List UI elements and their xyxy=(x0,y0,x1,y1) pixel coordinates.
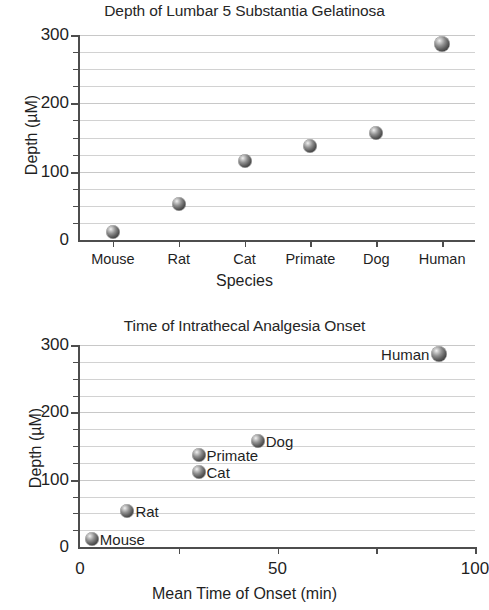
bottom-chart-y-tick xyxy=(73,497,80,498)
bottom-chart-y-tick xyxy=(73,513,80,514)
top-chart-gridline xyxy=(80,86,475,87)
bottom-chart-plot-area: 0100200300050100MouseRatCatPrimateDogHum… xyxy=(80,345,475,547)
bottom-chart-gridline xyxy=(80,463,475,464)
bottom-chart-x-tick xyxy=(278,547,280,554)
top-chart-y-tick xyxy=(71,35,80,37)
top-chart-gridline xyxy=(80,223,475,224)
bottom-chart-y-tick xyxy=(73,362,80,363)
bottom-chart-x-tick-label: 0 xyxy=(75,559,84,579)
bottom-chart-x-tick-label: 100 xyxy=(461,559,489,579)
top-chart-data-point-primate xyxy=(304,139,317,152)
top-chart-y-tick xyxy=(73,138,80,139)
top-chart-x-tick xyxy=(113,240,115,247)
bottom-chart-y-tick xyxy=(73,446,80,447)
bottom-chart-y-tick xyxy=(71,412,80,414)
top-chart-y-tick-label: 300 xyxy=(41,25,69,45)
top-chart-y-tick-label: 100 xyxy=(41,162,69,182)
top-chart-title: Depth of Lumbar 5 Substantia Gelatinosa xyxy=(0,2,489,20)
top-chart-y-tick xyxy=(73,52,80,53)
top-chart-y-tick xyxy=(73,120,80,121)
top-chart-gridline xyxy=(80,35,475,36)
top-chart-gridline xyxy=(80,52,475,53)
bottom-chart-y-tick xyxy=(73,429,80,430)
bottom-chart-title: Time of Intrathecal Analgesia Onset xyxy=(0,317,489,335)
bottom-chart-y-tick xyxy=(73,463,80,464)
bottom-chart-y-tick-label: 0 xyxy=(60,537,69,557)
bottom-chart-point-label-cat: Cat xyxy=(207,464,230,481)
figure-two-scatter-plots: Depth of Lumbar 5 Substantia Gelatinosa … xyxy=(0,0,489,610)
top-chart-category-label-cat: Cat xyxy=(233,251,256,267)
bottom-chart-x-tick-label: 50 xyxy=(268,559,287,579)
bottom-chart-y-tick xyxy=(73,379,80,380)
bottom-chart-y-tick xyxy=(71,345,80,347)
bottom-chart-x-tick xyxy=(475,547,477,554)
top-chart-y-axis-title: Depth (µM) xyxy=(23,75,41,195)
top-chart-data-point-rat xyxy=(172,197,185,210)
top-chart-x-tick xyxy=(442,240,444,247)
top-chart-data-point-cat xyxy=(238,155,251,168)
top-chart-y-tick xyxy=(73,189,80,190)
bottom-chart-y-tick xyxy=(73,530,80,531)
top-chart-category-label-human: Human xyxy=(419,251,466,267)
bottom-chart-x-tick xyxy=(376,547,378,554)
bottom-chart-y-tick xyxy=(73,396,80,397)
top-chart-gridline xyxy=(80,120,475,121)
bottom-chart-y-tick-label: 300 xyxy=(41,335,69,355)
bottom-chart-x-tick xyxy=(179,547,181,554)
bottom-chart-y-tick-label: 200 xyxy=(41,402,69,422)
top-chart-x-tick xyxy=(376,240,378,247)
top-chart-data-point-human xyxy=(435,36,450,51)
top-chart-gridline xyxy=(80,189,475,190)
bottom-chart-gridline xyxy=(80,412,475,413)
bottom-chart-point-label-human: Human xyxy=(381,345,429,362)
top-chart-data-point-dog xyxy=(370,126,383,139)
top-chart-y-tick xyxy=(71,172,80,174)
bottom-chart-data-point-cat xyxy=(192,466,205,479)
bottom-chart-gridline xyxy=(80,497,475,498)
bottom-chart-data-point-rat xyxy=(121,505,134,518)
top-chart-category-label-rat: Rat xyxy=(167,251,190,267)
top-chart-gridline xyxy=(80,69,475,70)
bottom-chart-gridline xyxy=(80,379,475,380)
chart-panel-depth-by-species: Depth of Lumbar 5 Substantia Gelatinosa … xyxy=(0,0,489,300)
top-chart-y-tick-label: 0 xyxy=(60,230,69,250)
bottom-chart-y-tick-label: 100 xyxy=(41,470,69,490)
top-chart-gridline xyxy=(80,103,475,104)
bottom-chart-x-axis-title: Mean Time of Onset (min) xyxy=(0,585,489,603)
bottom-chart-point-label-dog: Dog xyxy=(266,433,294,450)
top-chart-y-tick xyxy=(73,223,80,224)
top-chart-gridline xyxy=(80,155,475,156)
bottom-chart-gridline xyxy=(80,396,475,397)
top-chart-gridline xyxy=(80,172,475,173)
bottom-chart-point-label-mouse: Mouse xyxy=(100,530,145,547)
top-chart-y-tick-label: 200 xyxy=(41,93,69,113)
bottom-chart-gridline xyxy=(80,429,475,430)
top-chart-gridline xyxy=(80,138,475,139)
top-chart-y-tick xyxy=(73,86,80,87)
top-chart-x-tick xyxy=(179,240,181,247)
bottom-chart-data-point-primate xyxy=(192,448,205,461)
bottom-chart-gridline xyxy=(80,480,475,481)
bottom-chart-y-tick xyxy=(71,480,80,482)
bottom-chart-point-label-rat: Rat xyxy=(135,503,158,520)
top-chart-category-label-dog: Dog xyxy=(363,251,390,267)
top-chart-category-label-primate: Primate xyxy=(285,251,335,267)
top-chart-plot-area: 0100200300MouseRatCatPrimateDogHuman xyxy=(80,35,475,240)
top-chart-y-tick xyxy=(73,206,80,207)
chart-panel-depth-vs-onset: Time of Intrathecal Analgesia Onset Dept… xyxy=(0,300,489,610)
top-chart-y-tick xyxy=(71,103,80,105)
top-chart-x-tick xyxy=(310,240,312,247)
top-chart-x-axis-line xyxy=(78,240,475,242)
bottom-chart-data-point-human xyxy=(432,346,447,361)
bottom-chart-data-point-dog xyxy=(251,435,264,448)
top-chart-gridline xyxy=(80,206,475,207)
bottom-chart-point-label-primate: Primate xyxy=(207,446,259,463)
top-chart-data-point-mouse xyxy=(106,225,119,238)
top-chart-y-tick xyxy=(73,155,80,156)
top-chart-y-tick xyxy=(73,69,80,70)
top-chart-x-tick xyxy=(245,240,247,247)
top-chart-x-axis-title: Species xyxy=(0,272,489,290)
top-chart-category-label-mouse: Mouse xyxy=(91,251,135,267)
bottom-chart-data-point-mouse xyxy=(85,532,98,545)
